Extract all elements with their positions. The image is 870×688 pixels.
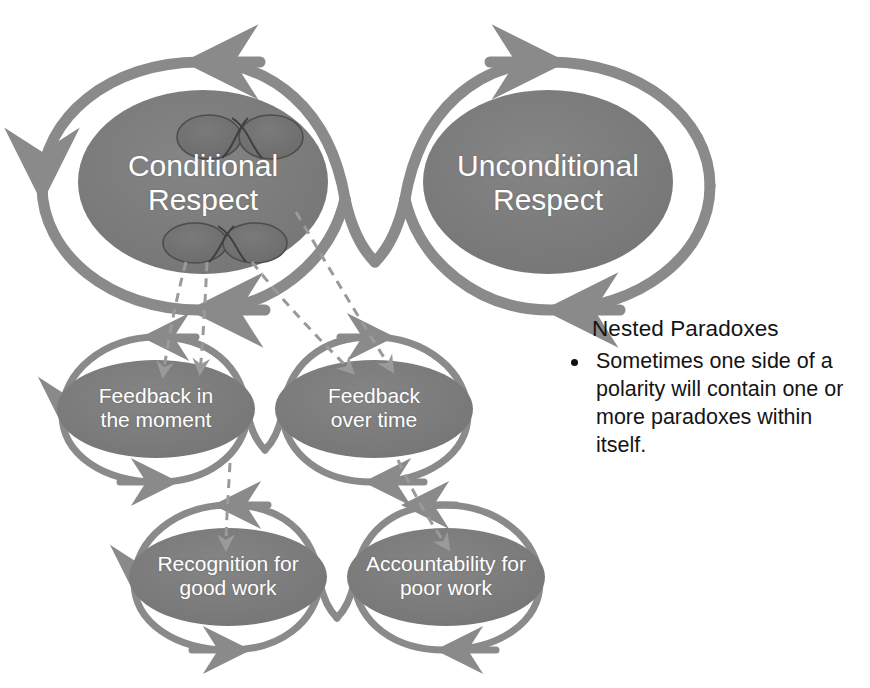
connector-cr-to-feedback-time-b: [296, 212, 392, 370]
pole-ellipse-recognition-for-good-work[interactable]: [129, 528, 327, 626]
notes-bullet-text: Sometimes one side of a polarity will co…: [596, 349, 843, 457]
pole-ellipse-unconditional-respect[interactable]: [423, 90, 673, 274]
notes-heading: Nested Paradoxes: [592, 316, 862, 342]
pole-ellipse-feedback-over-time[interactable]: [275, 360, 473, 458]
bullet-dot-icon: [571, 359, 578, 366]
notes-bullet-list: Sometimes one side of a polarity will co…: [566, 348, 862, 460]
pole-ellipse-accountability-for-poor-work[interactable]: [347, 528, 545, 626]
notes-panel: Nested Paradoxes Sometimes one side of a…: [566, 316, 862, 460]
tier1-cross-b: [375, 199, 405, 262]
diagram-canvas: Conditional Respect Unconditional Respec…: [0, 0, 870, 688]
tier1-cross-a: [345, 199, 375, 262]
pole-ellipse-feedback-in-the-moment[interactable]: [57, 360, 255, 458]
connector-cr-to-feedback-moment-a: [163, 262, 186, 375]
connector-cr-to-feedback-moment-b: [200, 262, 207, 372]
notes-bullet-item: Sometimes one side of a polarity will co…: [566, 348, 862, 460]
